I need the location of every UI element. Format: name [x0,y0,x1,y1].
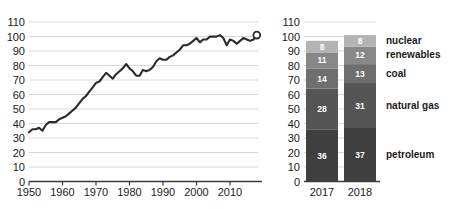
y-tick-label: 50 [13,103,25,115]
bar-segment-value-renewables: 11 [318,55,327,65]
x-tick-label: 1990 [151,186,175,198]
y-tick-label: 30 [13,132,25,144]
x-tick-label: 2010 [218,186,242,198]
x-tick-label: 2000 [184,186,208,198]
y-tick-label: 90 [288,45,300,57]
chart-figure: 110 100 90 80 70 60 50 40 30 20 10 0 [0,0,453,209]
legend-item-renewables[interactable]: renewables [386,49,441,60]
y-tick-label: 10 [13,161,25,173]
y-tick-label: 60 [288,89,300,101]
bar-segment-value-coal: 14 [317,74,327,84]
y-tick-label: 30 [288,132,300,144]
legend-item-nuclear[interactable]: nuclear [386,35,422,46]
stacked-bar-chart-svg: 110 100 90 80 70 60 50 40 30 20 10 0 [268,0,453,209]
bar-segment-value-coal: 13 [355,69,365,79]
legend-item-coal[interactable]: coal [386,68,406,79]
y-tick-label: 90 [13,45,25,57]
line-chart-panel: 110 100 90 80 70 60 50 40 30 20 10 0 [0,0,268,209]
energy-consumption-line [29,35,257,132]
y-tick-label: 100 [7,31,25,43]
bar-segment-value-nuclear: 8 [320,42,325,52]
bar-segment-value-renewables: 12 [355,50,365,60]
y-tick-label: 70 [13,74,25,86]
stacked-bar-chart-panel: 110 100 90 80 70 60 50 40 30 20 10 0 [268,0,453,209]
y-tick-label: 70 [288,74,300,86]
x-tick-label: 2018 [348,186,372,198]
bar-segment-value-natural-gas: 28 [317,104,327,114]
y-tick-label: 20 [288,147,300,159]
line-chart-svg: 110 100 90 80 70 60 50 40 30 20 10 0 [0,0,268,209]
x-tick-label: 1970 [84,186,108,198]
line-end-marker [253,32,260,39]
line-chart-y-axis: 110 100 90 80 70 60 50 40 30 20 10 0 [7,16,25,188]
line-chart-gridlines [29,22,258,167]
y-tick-label: 110 [7,16,25,28]
bar-segment-value-nuclear: 8 [358,36,363,46]
y-tick-label: 110 [282,16,300,28]
y-tick-label: 0 [294,176,300,188]
y-tick-label: 60 [13,89,25,101]
bar-chart-legend: nuclear renewables coal natural gas petr… [386,35,441,160]
y-tick-label: 40 [13,118,25,130]
bar-segment-value-natural-gas: 31 [355,101,365,111]
legend-item-natural-gas[interactable]: natural gas [386,100,440,111]
bar-2018[interactable]: 37 31 13 12 8 [344,35,376,181]
bar-2017[interactable]: 36 28 14 11 8 [306,41,338,182]
x-tick-label: 1960 [50,186,74,198]
y-tick-label: 80 [288,60,300,72]
bar-segment-value-petroleum: 36 [317,151,327,161]
y-tick-label: 100 [282,31,300,43]
y-tick-label: 50 [288,103,300,115]
legend-item-petroleum[interactable]: petroleum [386,149,434,160]
bar-chart-y-axis: 110 100 90 80 70 60 50 40 30 20 10 0 [282,16,300,188]
x-tick-label: 1980 [117,186,141,198]
line-chart-x-axis-labels: 1950 1960 1970 1980 1990 2000 2010 [17,186,242,198]
bar-segment-value-petroleum: 37 [355,150,365,160]
y-tick-label: 80 [13,60,25,72]
x-tick-label: 1950 [17,186,41,198]
y-tick-label: 40 [288,118,300,130]
x-tick-label: 2017 [310,186,334,198]
y-tick-label: 20 [13,147,25,159]
bar-chart-x-axis-labels: 2017 2018 [310,186,372,198]
y-tick-label: 10 [288,161,300,173]
